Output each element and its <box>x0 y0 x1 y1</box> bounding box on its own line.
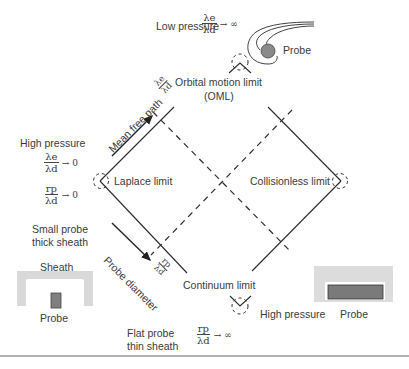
ratio-limit: → ∞ <box>214 330 232 340</box>
oml-abbreviation: (OML) <box>204 90 234 102</box>
ratio-denominator: λd <box>44 195 59 206</box>
thin-sheath-label: thin sheath <box>127 340 178 352</box>
continuum-limit-label: Continuum limit <box>183 279 255 291</box>
flat-probe-limit-ratio: rpλd → ∞ <box>196 323 232 346</box>
ratio-denominator: λd <box>196 335 211 346</box>
flat-probe-caption: Probe <box>340 308 368 320</box>
orbital-probe-illustration <box>248 22 314 64</box>
oml-label: Orbital motion limit <box>175 76 262 88</box>
laplace-limit-label: Laplace limit <box>114 175 172 187</box>
ratio-numerator: λe <box>202 12 216 24</box>
ratio-numerator: rp <box>45 183 58 195</box>
collisionless-vertex-marker <box>333 174 348 189</box>
ratio-limit: → ∞ <box>220 19 238 29</box>
thick-sheath-label: thick sheath <box>32 236 88 248</box>
laplace-vertex-marker <box>94 174 109 189</box>
collisionless-limit-label: Collisionless limit <box>250 175 330 187</box>
probe-radius-limit-ratio: rpλd → 0 <box>44 183 78 206</box>
continuum-vertex-marker <box>230 296 251 314</box>
flat-probe-thin-sheath-illustration <box>314 266 393 302</box>
oml-vertex-marker <box>229 54 251 73</box>
ratio-limit: → 0 <box>62 158 78 168</box>
flat-probe-label: Flat probe <box>127 327 174 339</box>
small-probe-caption: Probe <box>40 312 68 324</box>
ratio-denominator: λd <box>44 163 59 174</box>
high-pressure-bottom-label: High pressure <box>260 308 325 320</box>
ratio-numerator: λe <box>44 151 58 163</box>
ratio-numerator: rp <box>197 323 210 335</box>
small-probe-label: Small probe <box>32 223 88 235</box>
small-probe-thick-sheath-illustration <box>17 271 93 308</box>
mean-free-path-limit-ratio: λeλd → 0 <box>44 151 78 174</box>
high-pressure-left-label: High pressure <box>20 137 85 149</box>
low-pressure-ratio: λeλd → ∞ <box>202 12 238 35</box>
ratio-limit: → 0 <box>62 190 78 200</box>
orbital-probe-label: Probe <box>283 44 311 56</box>
ratio-denominator: λd <box>202 24 217 35</box>
sheath-label: Sheath <box>40 261 73 273</box>
